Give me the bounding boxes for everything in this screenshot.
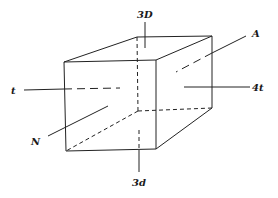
box-diagram: 3D 3d t 4t N A [0,0,278,198]
axis-A: A [176,28,260,72]
axis-t: t [11,85,120,96]
label-3D: 3D [137,9,153,20]
label-3d: 3d [132,177,146,188]
top-face [64,36,212,62]
label-A: A [251,28,260,39]
hidden-vertical-edge [137,37,138,111]
hidden-bottom-edge [66,111,138,151]
label-4t: 4t [252,82,264,93]
axis-4t: 4t [184,82,264,93]
axis-N: N [30,106,108,147]
axis-3D: 3D [137,9,153,48]
right-face [156,36,212,149]
axis-3d: 3d [132,130,146,188]
hidden-back-edge [138,108,212,111]
label-t: t [11,85,16,96]
front-face [64,60,156,151]
label-N: N [30,136,41,147]
